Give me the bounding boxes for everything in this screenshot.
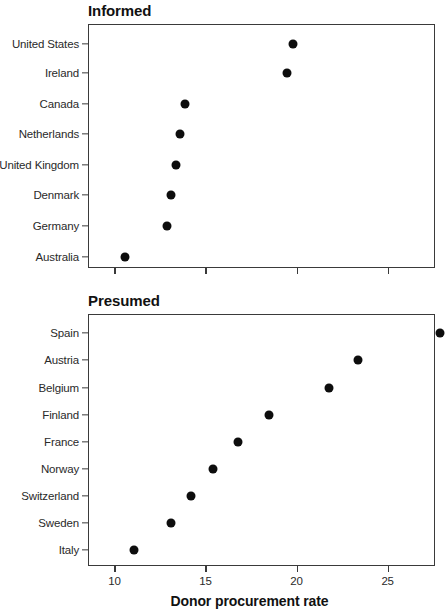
x-axis-tick-mark: [388, 566, 389, 572]
data-point: [130, 546, 139, 555]
y-axis-tick-mark: [82, 387, 88, 388]
y-axis-tick-label: Spain: [50, 327, 79, 339]
data-point: [181, 100, 190, 109]
y-axis-tick-mark: [82, 256, 88, 257]
x-axis-tick-mark: [205, 268, 206, 274]
y-axis-tick-mark: [82, 522, 88, 523]
y-axis-tick-mark: [82, 495, 88, 496]
y-axis-tick-mark: [82, 72, 88, 73]
data-point: [234, 438, 243, 447]
y-axis-tick-mark: [82, 43, 88, 44]
data-point: [436, 329, 445, 338]
panel-title-informed: Informed: [88, 2, 151, 19]
y-axis-tick-mark: [82, 549, 88, 550]
y-axis-tick-mark: [82, 414, 88, 415]
data-point: [208, 465, 217, 474]
data-point: [288, 40, 297, 49]
y-axis-tick-label: France: [44, 436, 79, 448]
x-axis-tick-mark: [114, 268, 115, 274]
y-axis-tick-mark: [82, 133, 88, 134]
data-point: [325, 384, 334, 393]
x-axis-tick-mark: [297, 268, 298, 274]
y-axis-tick-label: United States: [12, 38, 79, 50]
y-axis-tick-mark: [82, 225, 88, 226]
data-point: [172, 161, 181, 170]
data-point: [186, 492, 195, 501]
dot-plot-figure: InformedUnited StatesIrelandCanadaNether…: [0, 0, 445, 613]
y-axis-tick-label: Switzerland: [21, 490, 79, 502]
y-axis-tick-label: Australia: [36, 251, 79, 263]
y-axis-tick-label: Austria: [44, 354, 79, 366]
x-axis-tick-mark: [205, 566, 206, 572]
y-axis-tick-label: Italy: [59, 544, 79, 556]
y-axis-tick-label: Ireland: [45, 67, 79, 79]
x-axis-tick-mark: [388, 268, 389, 274]
y-axis-tick-label: Netherlands: [19, 128, 79, 140]
y-axis-tick-label: Sweden: [38, 517, 79, 529]
data-point: [265, 411, 274, 420]
y-axis-tick-mark: [82, 164, 88, 165]
data-point: [166, 191, 175, 200]
y-axis-tick-label: Canada: [40, 98, 79, 110]
y-axis-tick-label: Finland: [42, 409, 79, 421]
y-axis-tick-mark: [82, 441, 88, 442]
x-axis-tick-label: 20: [290, 575, 303, 587]
y-axis-tick-mark: [82, 468, 88, 469]
y-axis-tick-label: United Kingdom: [0, 159, 79, 171]
y-axis-tick-mark: [82, 359, 88, 360]
panel-title-presumed: Presumed: [88, 292, 160, 309]
x-axis-tick-label: 10: [108, 575, 121, 587]
y-axis-tick-label: Belgium: [39, 382, 80, 394]
x-axis-tick-mark: [114, 566, 115, 572]
plot-area-presumed: [88, 314, 435, 566]
data-point: [354, 356, 363, 365]
x-axis-tick-mark: [297, 566, 298, 572]
x-axis-title: Donor procurement rate: [170, 593, 328, 609]
x-axis-tick-label: 15: [199, 575, 212, 587]
y-axis-tick-label: Norway: [41, 463, 79, 475]
data-point: [166, 519, 175, 528]
data-point: [121, 253, 130, 262]
y-axis-tick-label: Germany: [33, 220, 79, 232]
y-axis-tick-mark: [82, 332, 88, 333]
y-axis-tick-mark: [82, 103, 88, 104]
y-axis-tick-label: Denmark: [33, 189, 79, 201]
x-axis-tick-label: 25: [381, 575, 394, 587]
data-point: [175, 130, 184, 139]
data-point: [163, 222, 172, 231]
y-axis-tick-mark: [82, 194, 88, 195]
data-point: [283, 69, 292, 78]
plot-area-informed: [88, 24, 435, 268]
